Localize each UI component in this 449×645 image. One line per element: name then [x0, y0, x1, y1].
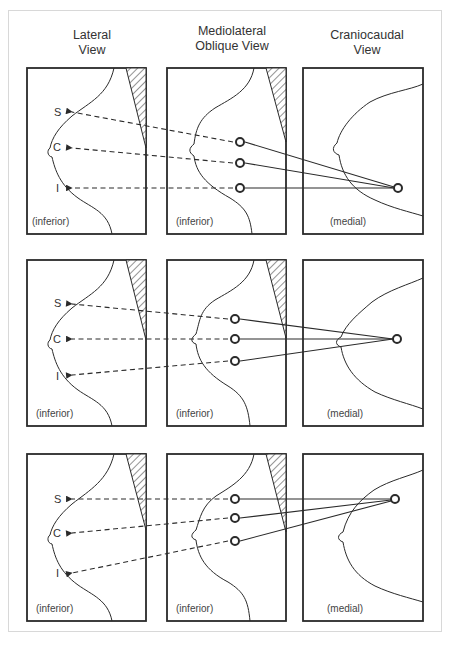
position-caption: (medial): [327, 408, 363, 419]
label-central: C: [53, 141, 61, 153]
label-superior: S: [54, 493, 61, 505]
row-1: (inferior) (inferior) (medial) S C I: [27, 68, 423, 234]
label-inferior: I: [56, 182, 59, 194]
lesion-marker: [236, 159, 244, 167]
lesion-marker: [391, 495, 399, 503]
mlo-panel: (inferior): [167, 454, 286, 621]
position-caption: (medial): [330, 216, 366, 227]
label-central: C: [53, 527, 61, 539]
label-superior: S: [54, 106, 61, 118]
lesion-marker: [394, 184, 402, 192]
lateral-panel: (inferior): [27, 454, 146, 621]
lesion-marker: [231, 335, 239, 343]
lesion-marker: [231, 537, 239, 545]
lesion-marker: [231, 514, 239, 522]
lesion-marker: [236, 138, 244, 146]
position-caption: (inferior): [176, 216, 213, 227]
label-inferior: I: [56, 370, 59, 382]
cc-panel: (medial): [303, 68, 423, 234]
label-superior: S: [54, 297, 61, 309]
lesion-marker: [231, 495, 239, 503]
mlo-panel: (inferior): [167, 68, 286, 234]
position-caption: (inferior): [36, 408, 73, 419]
lesion-marker: [231, 357, 239, 365]
lateral-panel: (inferior): [27, 260, 146, 426]
lesion-marker: [393, 335, 401, 343]
row-2: (inferior) (inferior) (medial) S C I: [27, 260, 423, 426]
position-caption: (medial): [327, 603, 363, 614]
row-3: (inferior) (inferior) (medial) S C I: [27, 454, 423, 621]
position-caption: (inferior): [176, 408, 213, 419]
label-central: C: [53, 333, 61, 345]
position-caption: (inferior): [36, 603, 73, 614]
position-caption: (inferior): [176, 603, 213, 614]
label-inferior: I: [56, 567, 59, 579]
localization-diagram: (inferior) (inferior) (medial) S C I: [0, 0, 449, 645]
lesion-marker: [236, 184, 244, 192]
lateral-panel: (inferior): [27, 68, 146, 234]
position-caption: (inferior): [32, 216, 69, 227]
lesion-marker: [231, 315, 239, 323]
cc-panel: (medial): [303, 454, 423, 621]
mlo-panel: (inferior): [167, 260, 286, 426]
